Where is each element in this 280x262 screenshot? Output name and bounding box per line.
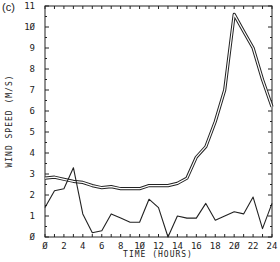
wind-speed-chart: Ø24681Ø121416182Ø2224Ø1234567891Ø11 TIME… [0, 0, 280, 262]
x-tick-label: 6 [99, 241, 104, 251]
upper-series-outline [45, 14, 272, 188]
lower-series-line [45, 168, 272, 237]
x-tick-label: 22 [248, 241, 259, 251]
y-tick-label: 4 [30, 148, 35, 158]
y-tick-label: Ø [30, 232, 36, 242]
y-tick-label: 11 [24, 1, 35, 11]
x-axis-title: TIME (HOURS) [123, 250, 193, 259]
axes [45, 6, 272, 237]
x-tick-label: Ø [42, 241, 48, 251]
y-tick-label: 3 [30, 169, 35, 179]
x-tick-label: 4 [80, 241, 85, 251]
y-tick-label: 9 [30, 43, 35, 53]
y-tick-label: 5 [30, 127, 35, 137]
y-tick-label: 7 [30, 85, 35, 95]
y-axis-title: WIND SPEED (M/S) [5, 74, 14, 167]
series-lines [45, 14, 272, 237]
x-tick-label: 18 [210, 241, 221, 251]
y-tick-label: 8 [30, 64, 35, 74]
upper-series-line [45, 14, 272, 188]
plot-frame [45, 6, 272, 237]
y-tick-label: 1 [30, 211, 35, 221]
y-tick-label: 6 [30, 106, 35, 116]
x-tick-label: 2 [61, 241, 66, 251]
x-tick-label: 24 [267, 241, 278, 251]
y-tick-label: 1Ø [24, 22, 35, 32]
y-tick-label: 2 [30, 190, 35, 200]
x-tick-label: 2Ø [229, 241, 240, 251]
